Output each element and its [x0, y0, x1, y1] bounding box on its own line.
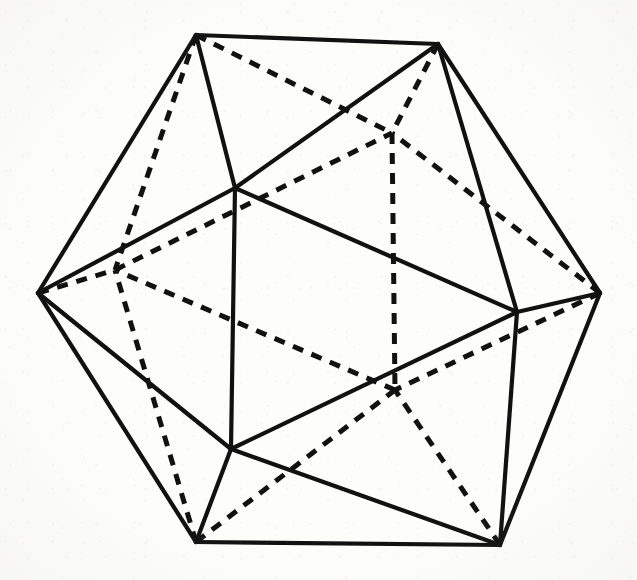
visible-edge-br-bl	[196, 542, 500, 545]
figure-background	[0, 0, 637, 580]
icosahedron-figure	[0, 0, 637, 580]
icosahedron-wireframe-svg	[0, 0, 637, 580]
